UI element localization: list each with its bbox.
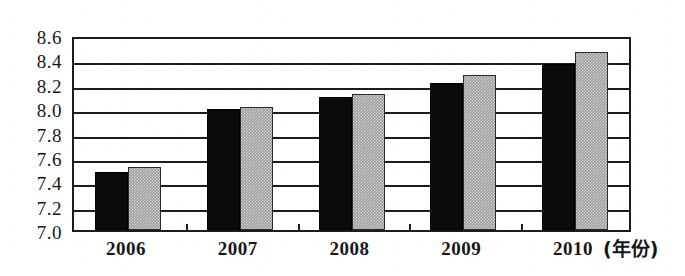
bar-2006-series-1 <box>95 172 128 231</box>
y-axis-tick-label: 7.8 <box>0 125 62 144</box>
y-axis-tick-label: 7.0 <box>0 223 62 242</box>
x-axis-tick-label-2006: 2006 <box>106 238 146 260</box>
y-axis-tick-label: 8.0 <box>0 101 62 120</box>
bar-group <box>542 39 608 230</box>
x-axis-tick-label-2010: 2010 <box>553 238 593 260</box>
bars-layer <box>74 39 629 230</box>
x-axis-tick-label-2008: 2008 <box>330 238 370 260</box>
y-axis-tick-label: 8.6 <box>0 28 62 47</box>
bar-group <box>207 39 273 230</box>
bar-group <box>319 39 385 230</box>
x-axis-tick-mark <box>521 224 523 230</box>
x-axis-tick-label-2009: 2009 <box>441 238 481 260</box>
y-axis-tick-label: 8.4 <box>0 52 62 71</box>
x-axis-tick-mark <box>409 224 411 230</box>
x-axis-tick-mark <box>298 224 300 230</box>
bar-2009-series-2 <box>463 75 496 230</box>
y-axis-tick-label: 7.6 <box>0 149 62 168</box>
bar-2010-series-2 <box>575 52 608 230</box>
bar-2007-series-1 <box>207 109 240 230</box>
bar-2008-series-2 <box>352 94 385 231</box>
x-axis-unit-label: (年份) <box>603 238 658 260</box>
bar-2010-series-1 <box>542 64 575 230</box>
bar-2009-series-1 <box>430 83 463 230</box>
bar-group <box>430 39 496 230</box>
y-axis-tick-label: 7.2 <box>0 198 62 217</box>
bar-2006-series-2 <box>128 167 161 230</box>
bar-chart-figure: 8.68.48.28.07.87.67.47.27.0 200620072008… <box>0 0 685 276</box>
y-axis-tick-labels: 8.68.48.28.07.87.67.47.27.0 <box>0 37 62 232</box>
y-axis-tick-label: 7.4 <box>0 174 62 193</box>
plot-area <box>72 37 631 232</box>
x-axis-tick-label-2007: 2007 <box>218 238 258 260</box>
y-axis-tick-label: 8.2 <box>0 76 62 95</box>
bar-group <box>95 39 161 230</box>
bar-2007-series-2 <box>240 107 273 230</box>
x-axis-tick-mark <box>186 224 188 230</box>
bar-2008-series-1 <box>319 97 352 230</box>
x-axis-tick-labels: 20062007200820092010(年份) <box>72 238 631 268</box>
